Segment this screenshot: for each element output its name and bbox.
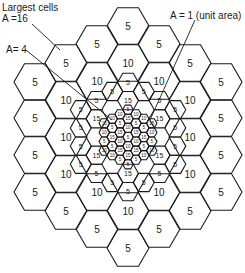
unit-area-label: A = 1 (unit area) xyxy=(170,11,241,21)
svg-text:5: 5 xyxy=(150,139,153,144)
svg-text:5: 5 xyxy=(125,243,131,254)
medium-cell: 5 xyxy=(165,137,186,155)
unit-cell: 15 xyxy=(146,119,157,128)
svg-text:15: 15 xyxy=(102,121,108,126)
svg-text:5: 5 xyxy=(143,125,146,130)
svg-text:5: 5 xyxy=(127,135,130,140)
svg-text:5: 5 xyxy=(119,121,122,126)
svg-text:5: 5 xyxy=(218,150,224,161)
svg-text:10: 10 xyxy=(125,144,131,149)
svg-text:5: 5 xyxy=(79,124,83,131)
svg-text:5: 5 xyxy=(103,139,106,144)
svg-text:5: 5 xyxy=(158,170,162,177)
svg-text:5: 5 xyxy=(126,79,130,86)
svg-text:15: 15 xyxy=(93,152,101,159)
svg-text:10: 10 xyxy=(118,139,124,144)
svg-text:10: 10 xyxy=(184,132,196,143)
svg-text:10: 10 xyxy=(184,95,196,106)
svg-text:10: 10 xyxy=(149,148,155,153)
svg-text:5: 5 xyxy=(79,106,83,113)
svg-text:5: 5 xyxy=(95,97,99,104)
svg-text:10: 10 xyxy=(153,187,165,198)
svg-text:15: 15 xyxy=(93,115,101,122)
svg-text:10: 10 xyxy=(153,76,165,87)
svg-text:10: 10 xyxy=(102,148,108,153)
svg-text:10: 10 xyxy=(60,132,72,143)
svg-text:5: 5 xyxy=(173,161,177,168)
medium-cell: 5 xyxy=(165,101,186,119)
unit-cell: 10 xyxy=(146,146,157,155)
svg-text:5: 5 xyxy=(110,88,114,95)
svg-text:5: 5 xyxy=(32,150,38,161)
svg-text:15: 15 xyxy=(124,97,132,104)
svg-text:5: 5 xyxy=(218,77,224,88)
large-cell: 5 xyxy=(138,211,180,247)
svg-text:5: 5 xyxy=(111,125,114,130)
svg-text:5: 5 xyxy=(218,187,224,198)
svg-text:10: 10 xyxy=(149,130,155,135)
svg-text:10: 10 xyxy=(60,169,72,180)
svg-text:5: 5 xyxy=(156,224,162,235)
svg-text:10: 10 xyxy=(133,139,139,144)
svg-text:5: 5 xyxy=(119,157,122,162)
medium-cell: 5 xyxy=(165,155,186,173)
svg-text:15: 15 xyxy=(124,170,132,177)
large-cell: 5 xyxy=(45,193,87,229)
large-cell: 5 xyxy=(14,100,56,136)
hexagon-lattice: 5555510101055101055101055101055101010555… xyxy=(0,0,245,273)
svg-text:15: 15 xyxy=(118,130,124,135)
svg-text:5: 5 xyxy=(94,224,100,235)
svg-text:10: 10 xyxy=(125,125,131,130)
svg-text:15: 15 xyxy=(133,148,139,153)
svg-text:15: 15 xyxy=(118,148,124,153)
svg-text:10: 10 xyxy=(122,206,134,217)
svg-text:5: 5 xyxy=(79,161,83,168)
svg-text:5: 5 xyxy=(135,121,138,126)
leader-line xyxy=(32,24,60,50)
svg-text:10: 10 xyxy=(110,153,116,158)
svg-text:5: 5 xyxy=(32,187,38,198)
large-cell: 5 xyxy=(200,64,242,100)
svg-text:10: 10 xyxy=(133,112,139,117)
svg-text:5: 5 xyxy=(173,124,177,131)
svg-text:15: 15 xyxy=(133,130,139,135)
svg-text:15: 15 xyxy=(125,116,131,121)
unit-cell: 5 xyxy=(146,137,157,146)
svg-text:15: 15 xyxy=(141,135,147,140)
svg-text:15: 15 xyxy=(125,153,131,158)
unit-cell: 10 xyxy=(146,128,157,137)
large-cell: 5 xyxy=(14,137,56,173)
svg-text:5: 5 xyxy=(63,58,69,69)
svg-text:10: 10 xyxy=(184,169,196,180)
svg-text:5: 5 xyxy=(63,206,69,217)
medium-cells-area-label: A= 4 xyxy=(6,45,27,55)
svg-text:5: 5 xyxy=(142,179,146,186)
svg-text:5: 5 xyxy=(32,113,38,124)
svg-text:5: 5 xyxy=(79,143,83,150)
large-cell: 5 xyxy=(76,211,118,247)
svg-text:5: 5 xyxy=(135,157,138,162)
svg-text:5: 5 xyxy=(143,144,146,149)
svg-text:5: 5 xyxy=(218,113,224,124)
svg-text:5: 5 xyxy=(111,144,114,149)
svg-text:5: 5 xyxy=(94,39,100,50)
largest-cells-label: Largest cells xyxy=(2,3,58,13)
large-cell: 5 xyxy=(14,174,56,210)
medium-cell: 5 xyxy=(165,119,186,137)
svg-text:10: 10 xyxy=(91,76,103,87)
svg-text:5: 5 xyxy=(173,143,177,150)
large-cell: 5 xyxy=(107,230,149,266)
large-cell: 5 xyxy=(200,174,242,210)
svg-text:15: 15 xyxy=(149,121,155,126)
large-cell: 5 xyxy=(45,45,87,81)
large-cell: 5 xyxy=(200,137,242,173)
svg-text:5: 5 xyxy=(156,39,162,50)
svg-text:10: 10 xyxy=(91,187,103,198)
svg-text:5: 5 xyxy=(95,170,99,177)
svg-text:5: 5 xyxy=(187,206,193,217)
svg-text:15: 15 xyxy=(156,115,164,122)
svg-text:5: 5 xyxy=(110,179,114,186)
large-cell: 5 xyxy=(138,26,180,62)
svg-text:5: 5 xyxy=(187,58,193,69)
svg-text:5: 5 xyxy=(32,77,38,88)
